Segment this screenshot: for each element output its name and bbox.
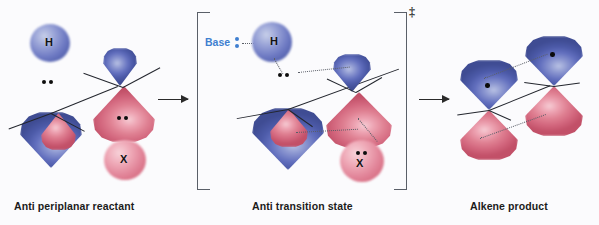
product-panel <box>440 0 599 195</box>
c2-substituent-bond-left <box>524 82 554 87</box>
c2-pi-electron <box>550 52 555 57</box>
c2-sp3-orbital-red <box>93 86 155 142</box>
caption-reactant: Anti periplanar reactant <box>14 200 134 212</box>
reactant-panel: H X <box>0 0 175 195</box>
figure-canvas: H X ‡ Base <box>0 0 599 225</box>
c1-substituent-bond-left <box>457 110 489 116</box>
c2-substituent-bond-right <box>554 82 580 87</box>
c1-pi-electron <box>485 83 490 88</box>
caption-transition-state: Anti transition state <box>252 200 353 212</box>
hydrogen-atom-label: H <box>45 36 53 48</box>
transition-state-panel: Base H X <box>190 0 415 195</box>
arrow-head <box>181 95 189 103</box>
leaving-group-label: X <box>356 157 363 169</box>
hydrogen-atom-label: H <box>270 35 278 47</box>
base-label: Base <box>205 36 230 48</box>
c2-p-orbital-red <box>525 86 583 136</box>
reaction-arrow-1 <box>158 94 188 106</box>
leaving-group-label: X <box>120 153 127 165</box>
c2-p-orbital-blue <box>525 36 583 86</box>
caption-product: Alkene product <box>470 200 548 212</box>
c2-sp3-orbital-blue <box>103 48 137 86</box>
